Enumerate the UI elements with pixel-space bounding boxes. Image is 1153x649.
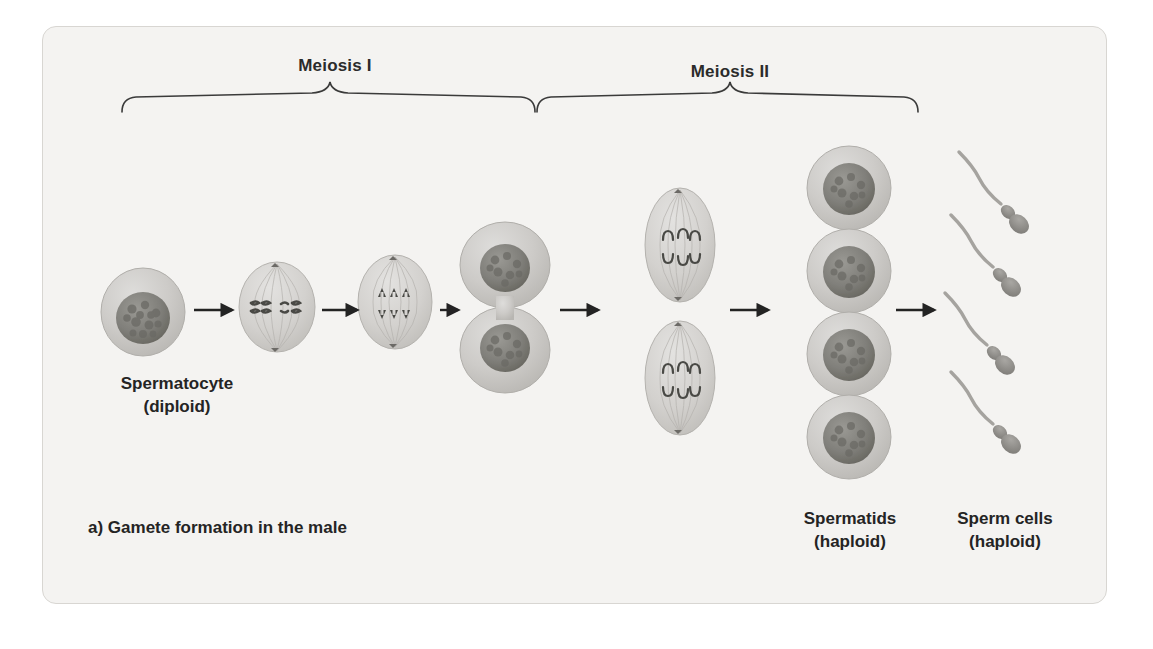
label-sperm-cells-line1: Sperm cells xyxy=(922,508,1088,531)
label-spermatocyte-line2: (diploid) xyxy=(84,396,270,419)
label-sperm-cells: Sperm cells (haploid) xyxy=(922,508,1088,554)
label-spermatocyte: Spermatocyte (diploid) xyxy=(84,373,270,419)
label-spermatids: Spermatids (haploid) xyxy=(770,508,930,554)
label-spermatids-line1: Spermatids xyxy=(770,508,930,531)
phase-label-meiosis-1: Meiosis I xyxy=(255,56,415,76)
figure-caption: a) Gamete formation in the male xyxy=(88,518,347,538)
label-spermatids-line2: (haploid) xyxy=(770,531,930,554)
label-spermatocyte-line1: Spermatocyte xyxy=(84,373,270,396)
phase-label-meiosis-2: Meiosis II xyxy=(650,62,810,82)
label-sperm-cells-line2: (haploid) xyxy=(922,531,1088,554)
